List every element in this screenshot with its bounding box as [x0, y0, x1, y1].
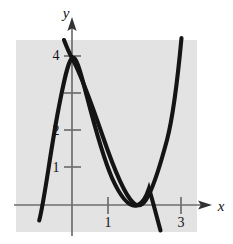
coordinate-plot: y x 4 2 1 1 3 — [0, 0, 233, 244]
x-axis-label: x — [217, 198, 225, 214]
x-tick-label-1: 1 — [105, 215, 112, 230]
graph-figure: y x 4 2 1 1 3 — [0, 0, 233, 244]
y-tick-label-1: 1 — [53, 160, 60, 175]
y-tick-label-4: 4 — [53, 48, 60, 63]
y-tick-label-2: 2 — [53, 123, 60, 138]
y-axis-label: y — [61, 5, 70, 21]
x-tick-label-3: 3 — [178, 215, 185, 230]
